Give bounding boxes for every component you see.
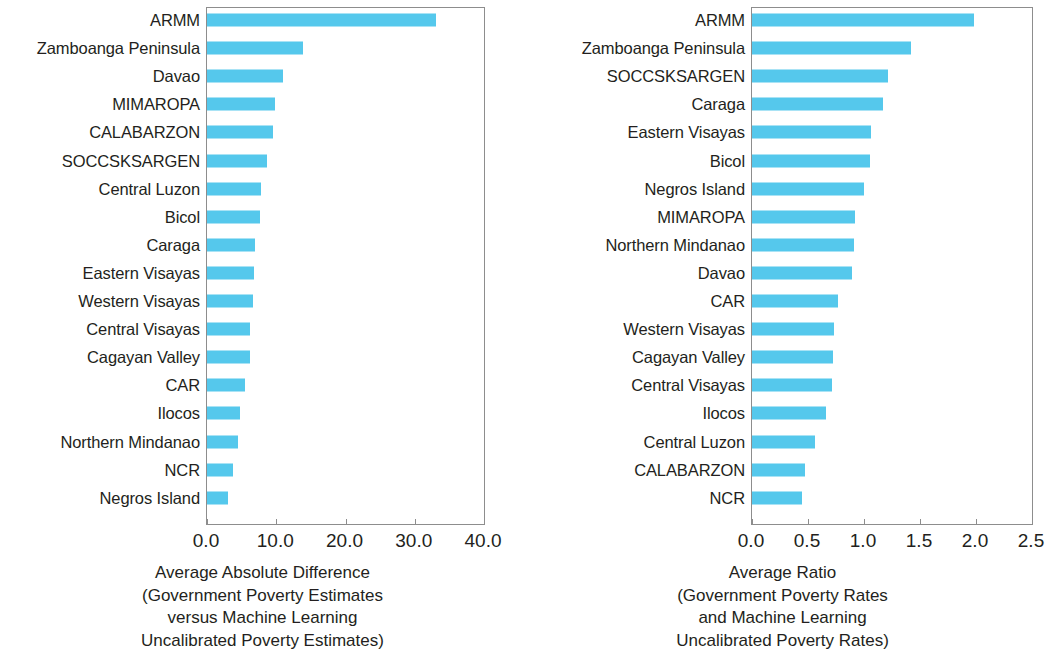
bar — [207, 463, 233, 476]
bar — [752, 491, 802, 504]
left-plot-area — [206, 7, 485, 525]
x-tick-label: 10.0 — [257, 531, 294, 550]
category-label: Cagayan Valley — [632, 349, 745, 366]
bar — [752, 154, 870, 167]
x-tick-label: 2.5 — [1018, 531, 1044, 550]
x-axis-caption-line: Average Ratio — [530, 562, 1035, 585]
bar — [207, 210, 260, 223]
bar — [207, 295, 253, 308]
panel-average-ratio: ARMMZamboanga PeninsulaSOCCSKSARGENCarag… — [525, 0, 1050, 664]
x-tick — [976, 519, 977, 524]
bar — [207, 407, 240, 420]
bar — [752, 407, 826, 420]
category-label: Negros Island — [99, 489, 200, 506]
category-label: Davao — [153, 68, 200, 85]
category-label: Davao — [698, 265, 745, 282]
category-label: Bicol — [710, 152, 745, 169]
x-tick — [752, 519, 753, 524]
bar — [752, 266, 852, 279]
bar — [752, 98, 883, 111]
bar — [752, 238, 854, 251]
x-tick-label: 1.0 — [850, 531, 876, 550]
x-tick — [1032, 519, 1033, 524]
x-axis-caption-line: and Machine Learning — [530, 607, 1035, 630]
x-tick — [276, 519, 277, 524]
bar — [752, 463, 805, 476]
bar — [207, 266, 254, 279]
x-tick-label: 1.5 — [906, 531, 932, 550]
category-label: Eastern Visayas — [628, 124, 745, 141]
category-label: Zamboanga Peninsula — [37, 40, 200, 57]
x-tick — [920, 519, 921, 524]
bar — [752, 351, 833, 364]
x-tick-label: 30.0 — [395, 531, 432, 550]
bar — [752, 14, 974, 27]
x-axis-caption-line: (Government Poverty Rates — [530, 585, 1035, 608]
bar — [207, 42, 303, 55]
category-label: Central Luzon — [99, 180, 200, 197]
category-label: Central Luzon — [644, 433, 745, 450]
category-label: NCR — [710, 489, 745, 506]
category-label: Western Visayas — [623, 321, 745, 338]
x-tick — [484, 519, 485, 524]
bar — [207, 14, 436, 27]
category-label: Zamboanga Peninsula — [582, 40, 745, 57]
category-label: CALABARZON — [634, 461, 745, 478]
x-tick-label: 2.0 — [962, 531, 988, 550]
category-label: Eastern Visayas — [83, 265, 200, 282]
x-tick — [207, 519, 208, 524]
x-axis-caption-line: versus Machine Learning — [10, 607, 515, 630]
category-label: Cagayan Valley — [87, 349, 200, 366]
category-label: ARMM — [150, 12, 200, 29]
bar — [752, 435, 815, 448]
category-label: Caraga — [691, 96, 745, 113]
bar — [207, 379, 245, 392]
figure-two-panel-bar-charts: ARMMZamboanga PeninsulaDavaoMIMAROPACALA… — [0, 0, 1050, 664]
category-label: SOCCSKSARGEN — [607, 68, 745, 85]
category-label: CAR — [165, 377, 200, 394]
x-axis-caption-line: (Government Poverty Estimates — [10, 585, 515, 608]
category-label: Caraga — [146, 237, 200, 254]
x-axis-caption-line: Uncalibrated Poverty Rates) — [530, 630, 1035, 653]
category-label: Ilocos — [157, 405, 200, 422]
left-x-axis-caption: Average Absolute Difference(Government P… — [10, 562, 515, 652]
left-category-axis-labels: ARMMZamboanga PeninsulaDavaoMIMAROPACALA… — [0, 0, 200, 525]
x-tick — [808, 519, 809, 524]
right-plot-area — [751, 7, 1033, 525]
bar — [207, 351, 250, 364]
x-tick-label: 0.0 — [193, 531, 219, 550]
x-tick — [346, 519, 347, 524]
x-tick-label: 0.5 — [794, 531, 820, 550]
bar — [207, 70, 283, 83]
category-label: CALABARZON — [89, 124, 200, 141]
x-axis-caption-line: Average Absolute Difference — [10, 562, 515, 585]
bar — [207, 126, 273, 139]
bar — [752, 323, 834, 336]
x-tick — [415, 519, 416, 524]
bar — [752, 182, 864, 195]
category-label: Northern Mindanao — [605, 237, 745, 254]
panel-average-absolute-difference: ARMMZamboanga PeninsulaDavaoMIMAROPACALA… — [0, 0, 525, 664]
bar — [207, 98, 275, 111]
category-label: Negros Island — [644, 180, 745, 197]
category-label: CAR — [710, 293, 745, 310]
bar — [752, 295, 838, 308]
x-tick-label: 20.0 — [326, 531, 363, 550]
x-axis-caption-line: Uncalibrated Poverty Estimates) — [10, 630, 515, 653]
bar — [752, 70, 888, 83]
bar — [207, 491, 228, 504]
right-x-axis-caption: Average Ratio(Government Poverty Ratesan… — [530, 562, 1035, 652]
category-label: MIMAROPA — [657, 208, 745, 225]
bar — [207, 238, 255, 251]
bar — [752, 42, 911, 55]
category-label: Central Visayas — [631, 377, 745, 394]
right-category-axis-labels: ARMMZamboanga PeninsulaSOCCSKSARGENCarag… — [525, 0, 745, 525]
bar — [752, 126, 871, 139]
category-label: Bicol — [165, 208, 200, 225]
bar — [752, 379, 832, 392]
x-tick — [864, 519, 865, 524]
bar — [207, 182, 261, 195]
category-label: SOCCSKSARGEN — [62, 152, 200, 169]
bar — [207, 323, 250, 336]
category-label: MIMAROPA — [112, 96, 200, 113]
